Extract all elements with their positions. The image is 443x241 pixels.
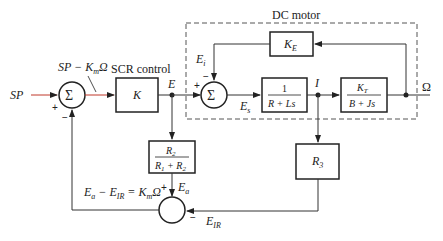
controller-k-block: K	[116, 78, 158, 112]
svg-text:+: +	[161, 182, 167, 193]
eir-line	[187, 179, 318, 211]
svg-text:Σ: Σ	[207, 88, 215, 103]
summing-junction-2: Σ + −	[194, 71, 227, 108]
svg-text:−: −	[62, 112, 68, 123]
electrical-block: 1 R + Ls	[262, 78, 307, 112]
svg-text:1: 1	[282, 83, 287, 94]
summing-junction-1: Σ + −	[52, 82, 85, 123]
back-emf-ke-block: KE	[270, 32, 313, 56]
svg-text:−: −	[203, 71, 209, 82]
mechanical-block: KT B + Js	[341, 78, 387, 112]
output-omega-label: Ω	[422, 80, 431, 94]
signal-eir-label: EIR	[205, 214, 221, 230]
feedback-equation: Ea − EIR = KmΩ	[83, 185, 161, 201]
svg-text:+: +	[52, 102, 58, 113]
summing-junction-3	[159, 197, 185, 223]
sense-r3-block: R3	[296, 144, 339, 179]
ei-line	[214, 44, 270, 80]
svg-text:−: −	[190, 212, 196, 223]
signal-es-label: Es	[239, 99, 250, 115]
svg-text:+: +	[194, 80, 200, 91]
svg-text:K: K	[132, 88, 142, 102]
dc-motor-label: DC motor	[272, 8, 320, 22]
svg-text:SP − KmΩ: SP − KmΩ	[58, 60, 108, 76]
svg-text:R + Ls: R + Ls	[267, 98, 295, 109]
signal-ei-label: Ei	[195, 52, 206, 68]
signal-ea-label: Ea	[177, 180, 189, 196]
block-diagram: DC motor SP Σ + − SP − KmΩ SCR control K…	[0, 0, 443, 241]
svg-text:B + Js: B + Js	[349, 98, 375, 109]
signal-e-label: E	[167, 77, 176, 91]
scr-control-label: SCR control	[111, 62, 171, 76]
input-sp-label: SP	[10, 88, 24, 102]
voltage-divider-block: R2 R1 + R2	[149, 141, 195, 173]
node-omega	[404, 93, 409, 98]
svg-text:Σ: Σ	[65, 88, 73, 103]
signal-i-label: I	[314, 76, 320, 90]
